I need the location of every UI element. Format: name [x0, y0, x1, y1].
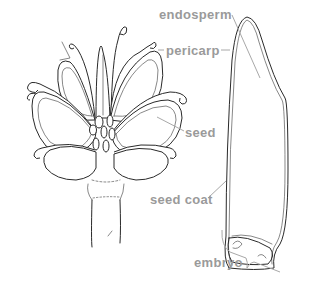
- seed-outline: [225, 17, 288, 270]
- label-seed: seed: [185, 126, 216, 139]
- label-embryo: embryo: [194, 256, 243, 269]
- seed-leader: [157, 117, 184, 131]
- label-endosperm: endosperm: [159, 8, 232, 21]
- label-seed-coat: seed coat: [150, 193, 213, 206]
- diagram-figure: endosperm pericarp seed seed coat embryo: [0, 0, 312, 291]
- label-pericarp: pericarp: [166, 44, 220, 57]
- seed-section-drawing: [0, 0, 312, 291]
